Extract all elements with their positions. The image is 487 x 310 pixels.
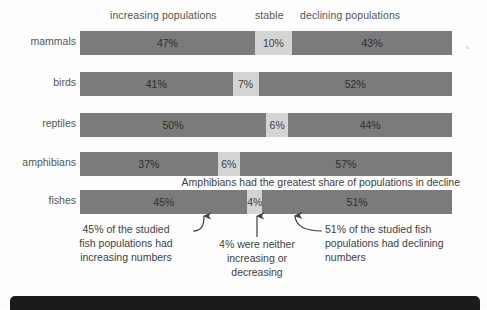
row-label-mammals: mammals xyxy=(30,35,76,47)
leader-line-declining-icon xyxy=(295,216,322,231)
stacked-bar-birds: 41% 7% 52% xyxy=(80,72,452,96)
segment-increasing-reptiles: 50% xyxy=(80,113,266,137)
stacked-bar-reptiles: 50% 6% 44% xyxy=(80,113,452,137)
segment-declining-birds: 52% xyxy=(259,72,452,96)
annotation-increasing-line1: 45% of the studied xyxy=(58,222,194,236)
row-label-amphibians: amphibians xyxy=(22,156,76,168)
annotation-stable-line3: decreasing xyxy=(203,265,311,279)
chart-row-amphibians: amphibians 37% 6% 57% xyxy=(0,152,487,176)
scan-speckle xyxy=(466,46,469,49)
segment-declining-mammals: 43% xyxy=(292,31,452,55)
annotation-declining: 51% of the studied fish populations had … xyxy=(325,222,475,264)
annotation-stable: 4% were neither increasing or decreasing xyxy=(203,237,311,279)
chart-row-birds: birds 41% 7% 52% xyxy=(0,72,487,96)
segment-stable-amphibians: 6% xyxy=(218,152,240,176)
segment-declining-reptiles: 44% xyxy=(288,113,452,137)
annotation-increasing-line3: increasing numbers xyxy=(58,250,194,264)
row-label-birds: birds xyxy=(53,76,76,88)
annotation-increasing-line2: fish populations had xyxy=(58,236,194,250)
segment-stable-reptiles: 6% xyxy=(266,113,288,137)
column-header-declining: declining populations xyxy=(300,9,400,21)
segment-stable-birds: 7% xyxy=(233,72,259,96)
column-header-stable: stable xyxy=(255,9,284,21)
segment-declining-fishes: 51% xyxy=(262,190,452,214)
chart-row-fishes: fishes 45% 4% 51% xyxy=(0,190,487,214)
row-label-fishes: fishes xyxy=(49,194,76,206)
segment-increasing-amphibians: 37% xyxy=(80,152,218,176)
segment-increasing-fishes: 45% xyxy=(80,190,247,214)
chart-row-reptiles: reptiles 50% 6% 44% xyxy=(0,113,487,137)
annotation-declining-line1: 51% of the studied fish xyxy=(325,222,475,236)
column-header-increasing: increasing populations xyxy=(110,9,217,21)
stacked-bar-amphibians: 37% 6% 57% xyxy=(80,152,452,176)
annotation-declining-line3: numbers xyxy=(325,250,475,264)
segment-increasing-birds: 41% xyxy=(80,72,233,96)
bottom-edge-bar xyxy=(10,296,480,310)
segment-stable-mammals: 10% xyxy=(255,31,292,55)
annotation-amphibians-note: Amphibians had the greatest share of pop… xyxy=(0,176,460,188)
stacked-bar-fishes: 45% 4% 51% xyxy=(80,190,452,214)
annotation-increasing: 45% of the studied fish populations had … xyxy=(58,222,194,264)
chart-row-mammals: mammals 47% 10% 43% xyxy=(0,31,487,55)
segment-increasing-mammals: 47% xyxy=(80,31,255,55)
annotation-stable-line2: increasing or xyxy=(203,251,311,265)
segment-stable-fishes: 4% xyxy=(247,190,262,214)
segment-declining-amphibians: 57% xyxy=(240,152,452,176)
stacked-bar-mammals: 47% 10% 43% xyxy=(80,31,452,55)
annotation-declining-line2: populations had declining xyxy=(325,236,475,250)
annotation-stable-line1: 4% were neither xyxy=(203,237,311,251)
leader-line-increasing-icon xyxy=(193,216,204,231)
row-label-reptiles: reptiles xyxy=(42,117,76,129)
